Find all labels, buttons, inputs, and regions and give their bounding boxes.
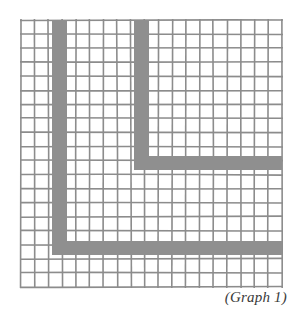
grid-diagram: [0, 0, 301, 319]
path-segment: [52, 241, 282, 255]
figure-caption: (Graph 1): [225, 289, 287, 306]
path-segment: [134, 156, 282, 170]
grid-horizontal-line: [20, 287, 283, 288]
l-shaped-paths: [52, 20, 282, 255]
outer-l-path: [52, 20, 282, 255]
path-segment: [134, 20, 149, 170]
path-segment: [52, 20, 67, 255]
grid-horizontal-line: [20, 258, 283, 259]
grid-horizontal-line: [20, 272, 283, 273]
graph-figure: (Graph 1): [0, 0, 301, 319]
grid-vertical-line: [48, 19, 49, 288]
